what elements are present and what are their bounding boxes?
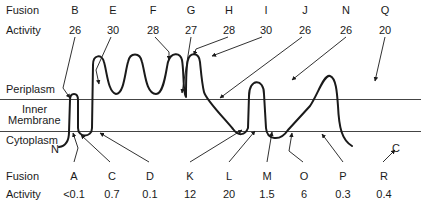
bottom-activity-o: 6 [301, 188, 307, 200]
bottom-activity-label: Activity [6, 188, 41, 200]
bottom-activity-k: 12 [184, 188, 196, 200]
bottom-activity-d: 0.1 [142, 188, 157, 200]
bottom-fusion-l: L [226, 170, 232, 182]
membrane-topology-diagram [0, 0, 421, 204]
bottom-fusion-r: R [380, 170, 388, 182]
bottom-fusion-label: Fusion [6, 170, 39, 182]
arrow-n [292, 37, 346, 80]
bottom-activity-l: 20 [223, 188, 235, 200]
bottom-activity-c: 0.7 [104, 188, 119, 200]
bottom-fusion-k: K [186, 170, 193, 182]
bottom-fusion-m: M [262, 170, 271, 182]
arrow-a [73, 133, 78, 162]
arrow-f [155, 37, 169, 60]
arrow-r [383, 150, 395, 162]
arrow-k [190, 130, 242, 162]
arrow-d [100, 133, 149, 162]
arrow-o [289, 133, 303, 162]
arrow-q [375, 37, 385, 81]
bottom-activity-a: <0.1 [63, 188, 85, 200]
bottom-fusion-a: A [70, 170, 77, 182]
arrow-b [63, 37, 75, 98]
bottom-activity-p: 0.3 [335, 188, 350, 200]
bottom-activity-r: 0.4 [376, 188, 391, 200]
arrow-c [81, 135, 110, 162]
bottom-fusion-o: O [300, 170, 309, 182]
arrow-p [322, 134, 343, 162]
bottom-activity-m: 1.5 [259, 188, 274, 200]
bottom-fusion-c: C [108, 170, 116, 182]
protein-backbone [59, 54, 352, 147]
arrow-j [220, 37, 302, 98]
bottom-fusion-d: D [146, 170, 154, 182]
bottom-fusion-p: P [339, 170, 346, 182]
